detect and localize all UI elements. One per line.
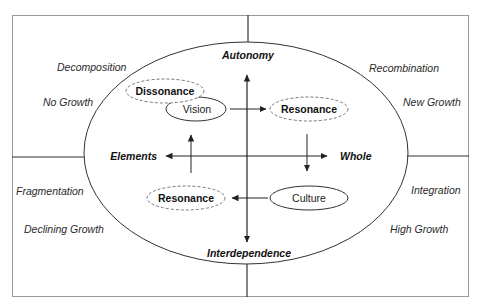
quadrant-label-recombination: Recombination (369, 62, 439, 74)
node-resonance-top: Resonance (270, 97, 348, 121)
axis-label-interdependence: Interdependence (207, 247, 291, 259)
node-culture-label: Culture (292, 192, 326, 204)
quadrant-label-integration: Integration (411, 184, 461, 196)
node-resonance-bottom-label: Resonance (158, 192, 214, 204)
node-resonance-top-label: Resonance (281, 103, 337, 115)
node-vision-label: Vision (183, 103, 212, 115)
quadrant-label-new-growth: New Growth (403, 96, 461, 108)
node-dissonance: Dissonance (126, 79, 204, 103)
axis-label-elements: Elements (110, 150, 157, 162)
quadrant-label-decomposition: Decomposition (57, 61, 127, 73)
quadrant-label-high-growth: High Growth (390, 223, 449, 235)
quadrant-label-declining-growth: Declining Growth (24, 223, 104, 235)
node-resonance-bottom: Resonance (147, 186, 225, 210)
node-culture: Culture (270, 186, 348, 210)
node-dissonance-label: Dissonance (136, 85, 195, 97)
quadrant-label-fragmentation: Fragmentation (16, 185, 84, 197)
axis-label-whole: Whole (340, 150, 372, 162)
axis-label-autonomy: Autonomy (221, 49, 275, 61)
quadrant-label-no-growth: No Growth (43, 96, 93, 108)
diagram-canvas: Vision Dissonance Resonance Culture Reso… (0, 0, 481, 306)
